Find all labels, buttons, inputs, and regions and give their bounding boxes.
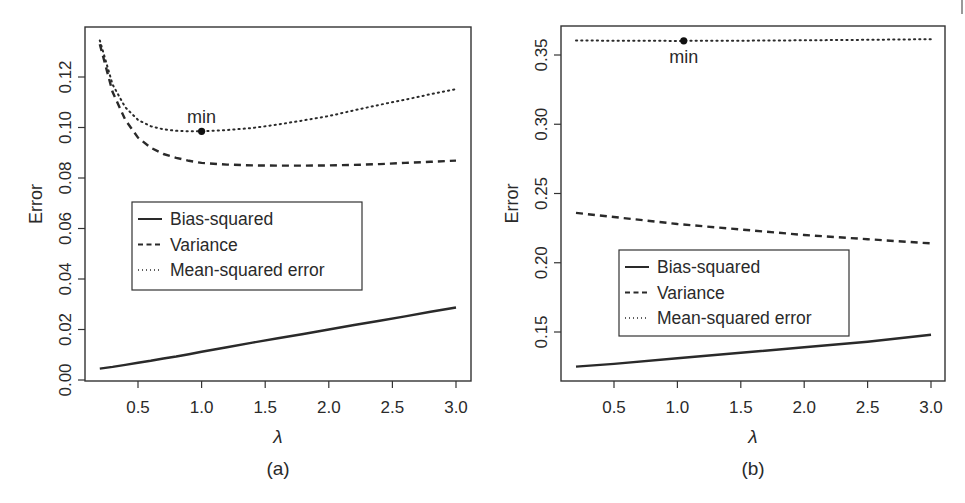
y-tick-label: 0.15: [532, 315, 551, 348]
x-tick-label: 1.0: [666, 398, 690, 417]
x-tick-label: 0.5: [602, 398, 626, 417]
y-tick-label: 0.12: [56, 60, 75, 93]
x-tick-label: 0.5: [126, 398, 150, 417]
panel-label: (a): [266, 458, 289, 479]
legend-label: Bias-squared: [170, 209, 273, 229]
x-tick-label: 2.5: [381, 398, 405, 417]
y-tick-label: 0.20: [532, 246, 551, 279]
legend-label: Variance: [170, 235, 238, 255]
chart-panel-b: 0.51.01.52.02.53.00.150.200.250.300.35Er…: [482, 0, 965, 503]
x-tick-label: 3.0: [444, 398, 468, 417]
x-tick-label: 1.5: [729, 398, 753, 417]
chart-b: 0.51.01.52.02.53.00.150.200.250.300.35Er…: [482, 0, 965, 503]
y-tick-label: 0.06: [56, 212, 75, 245]
legend-label: Bias-squared: [657, 257, 760, 277]
min-label: min: [187, 107, 216, 127]
x-tick-label: 2.0: [317, 398, 341, 417]
x-tick-label: 2.0: [792, 398, 816, 417]
x-axis-label: λ: [747, 426, 757, 447]
series-bias-squared: [576, 335, 931, 367]
y-tick-label: 0.30: [532, 108, 551, 141]
y-tick-label: 0.35: [532, 38, 551, 71]
x-tick-label: 2.5: [856, 398, 880, 417]
x-tick-label: 1.0: [190, 398, 214, 417]
y-tick-label: 0.25: [532, 177, 551, 210]
y-axis-label: Error: [26, 184, 46, 224]
x-tick-label: 1.5: [253, 398, 277, 417]
y-tick-label: 0.00: [56, 363, 75, 396]
y-tick-label: 0.04: [56, 262, 75, 295]
series-variance: [576, 213, 931, 244]
series-bias-squared: [100, 308, 456, 369]
legend-label: Variance: [657, 283, 725, 303]
chart-panel-a: 0.51.01.52.02.53.00.000.020.040.060.080.…: [0, 0, 482, 503]
y-tick-label: 0.08: [56, 161, 75, 194]
page-edge-mark: [961, 0, 963, 14]
legend: Bias-squaredVarianceMean-squared error: [619, 250, 849, 336]
legend-label: Mean-squared error: [657, 308, 812, 328]
x-tick-label: 3.0: [919, 398, 943, 417]
legend-label: Mean-squared error: [170, 260, 325, 280]
legend: Bias-squaredVarianceMean-squared error: [132, 202, 362, 290]
chart-a: 0.51.01.52.02.53.00.000.020.040.060.080.…: [0, 0, 482, 503]
series-variance: [100, 44, 456, 165]
min-label: min: [669, 47, 698, 67]
y-tick-label: 0.10: [56, 111, 75, 144]
panel-label: (b): [741, 458, 764, 479]
y-axis-label: Error: [502, 183, 522, 223]
min-marker: [680, 37, 687, 44]
series-mean-squared-error: [100, 40, 456, 131]
min-marker: [198, 128, 205, 135]
y-tick-label: 0.02: [56, 313, 75, 346]
series-mean-squared-error: [576, 39, 931, 41]
x-axis-label: λ: [272, 426, 282, 447]
